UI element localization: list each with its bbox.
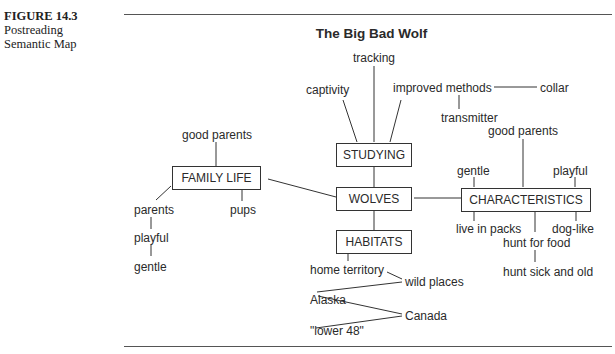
node-studying: STUDYING — [336, 143, 412, 167]
node-wolves: WOLVES — [336, 187, 412, 211]
node-hunt-sick-and-old: hunt sick and old — [503, 265, 593, 279]
node-collar: collar — [540, 81, 569, 95]
node-tracking: tracking — [353, 51, 395, 65]
node-family-playful: playful — [134, 231, 169, 245]
node-characteristics: CHARACTERISTICS — [461, 188, 591, 212]
node-hunt-for-food: hunt for food — [503, 236, 570, 250]
node-pups: pups — [230, 203, 256, 217]
node-char-good-parents: good parents — [488, 124, 558, 138]
node-dog-like: dog-like — [552, 222, 594, 236]
node-family-good-parents: good parents — [182, 128, 252, 142]
node-char-playful: playful — [553, 164, 588, 178]
node-live-in-packs: live in packs — [456, 222, 521, 236]
node-transmitter: transmitter — [441, 111, 498, 125]
node-home-territory: home territory — [310, 263, 384, 277]
node-canada: Canada — [405, 309, 447, 323]
node-parents: parents — [134, 203, 174, 217]
node-wild-places: wild places — [405, 275, 464, 289]
node-improved-methods: improved methods — [393, 81, 492, 95]
node-char-gentle: gentle — [457, 164, 490, 178]
connector-lines — [0, 0, 615, 354]
node-habitats: HABITATS — [336, 230, 412, 254]
node-lower-48: "lower 48" — [310, 324, 364, 338]
node-captivity: captivity — [306, 83, 349, 97]
node-family-gentle: gentle — [134, 260, 167, 274]
node-family-life: FAMILY LIFE — [172, 166, 261, 190]
node-alaska: Alaska — [310, 293, 346, 307]
